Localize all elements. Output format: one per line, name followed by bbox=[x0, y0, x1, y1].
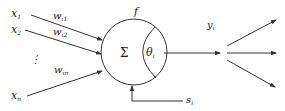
input-x1-label: x1 bbox=[11, 7, 21, 20]
threshold-label: θi bbox=[146, 46, 155, 59]
output-branch-down bbox=[227, 60, 275, 87]
ellipsis: ⋮ bbox=[30, 53, 41, 66]
output-branch-up bbox=[227, 20, 276, 46]
neuron-diagram: x1 x2 ⋮ xn wi1 wi2 win f Σ θi si yi bbox=[0, 0, 285, 111]
sum-symbol: Σ bbox=[120, 46, 128, 60]
input-xn-label: xn bbox=[11, 89, 21, 102]
neuron-circle bbox=[101, 19, 167, 85]
external-input-arrow bbox=[132, 86, 183, 101]
input-x2-label: x2 bbox=[11, 23, 21, 36]
weight-wi1-label: wi1 bbox=[53, 10, 67, 22]
output-y-label: yi bbox=[206, 19, 215, 31]
weight-wi2-label: wi2 bbox=[53, 26, 67, 38]
weight-win-label: win bbox=[54, 64, 68, 76]
function-f-label: f bbox=[133, 5, 140, 18]
external-input-label: si bbox=[186, 94, 193, 106]
